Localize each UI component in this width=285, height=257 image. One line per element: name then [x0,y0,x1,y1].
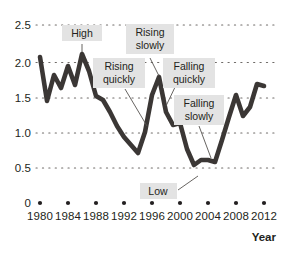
x-tick-dot [38,201,42,205]
annotation-high-label: High [71,27,93,39]
annotation-rising-slowly-line1: Rising [135,26,164,38]
y-tick-label: 1.0 [15,127,31,139]
y-tick-label: 2.5 [15,19,31,31]
annotation-falling-quickly-line1: Falling [174,60,205,72]
x-tick-dot [234,201,238,205]
y-axis-labels: 2.5 2.0 1.5 1.0 0.5 0 [15,19,31,209]
x-tick-label: 2008 [223,210,249,222]
annotation-rising-slowly: Rising slowly [126,24,174,54]
y-tick-label: 2.0 [15,57,31,69]
leader-rising-quickly [125,89,147,126]
annotation-rising-quickly: Rising quickly [93,58,145,88]
annotation-falling-slowly-line1: Falling [184,97,215,109]
data-series-line [40,54,264,165]
x-tick-label: 1992 [111,210,137,222]
x-tick-dot [94,201,98,205]
x-tick-label: 2012 [251,210,277,222]
annotation-falling-slowly-line2: slowly [185,110,214,122]
x-axis-ticks [38,201,266,205]
x-tick-dot [122,201,126,205]
annotation-rising-slowly-line2: slowly [136,39,165,51]
line-chart: 2.5 2.0 1.5 1.0 0.5 0 1980 1984 1988 199… [0,0,285,257]
y-tick-label: 0.5 [15,162,31,174]
x-tick-dot [206,201,210,205]
x-tick-label: 1984 [55,210,81,222]
leader-rising-slowly [150,58,159,76]
annotation-high: High [62,25,102,41]
x-tick-dot [66,201,70,205]
x-tick-dot [150,201,154,205]
annotation-rising-quickly-line1: Rising [104,60,133,72]
annotation-rising-quickly-line2: quickly [103,73,136,85]
x-axis-labels: 1980 1984 1988 1992 1996 2000 2004 2008 … [27,210,277,222]
annotation-low: Low [140,183,177,199]
x-tick-label: 2004 [195,210,221,222]
x-tick-dot [262,201,266,205]
annotation-falling-quickly: Falling quickly [163,58,215,88]
x-tick-label: 1996 [139,210,165,222]
x-tick-dot [178,201,182,205]
x-tick-label: 2000 [167,210,193,222]
chart-canvas: 2.5 2.0 1.5 1.0 0.5 0 1980 1984 1988 199… [0,0,285,257]
x-tick-label: 1988 [83,210,109,222]
leader-falling-slowly [199,126,211,158]
x-tick-label: 1980 [27,210,53,222]
y-tick-label: 1.5 [15,92,31,104]
leader-low [178,176,198,190]
annotation-falling-slowly: Falling slowly [174,95,224,125]
annotation-falling-quickly-line2: quickly [173,73,206,85]
x-axis-title: Year [252,231,277,243]
annotation-low-label: Low [148,185,168,197]
y-tick-label: 0 [25,197,32,209]
